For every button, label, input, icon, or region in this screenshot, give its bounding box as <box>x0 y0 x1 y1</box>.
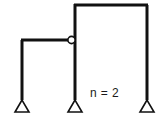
frame-diagram-canvas: n = 2 <box>0 0 157 118</box>
internal-hinge-icon <box>68 36 75 43</box>
left-pin-support-icon <box>15 100 29 112</box>
middle-pin-support-icon <box>68 100 82 112</box>
indeterminacy-label: n = 2 <box>90 86 119 100</box>
frame-diagram-figure: n = 2 <box>0 0 157 118</box>
right-pin-support-icon <box>140 100 154 112</box>
